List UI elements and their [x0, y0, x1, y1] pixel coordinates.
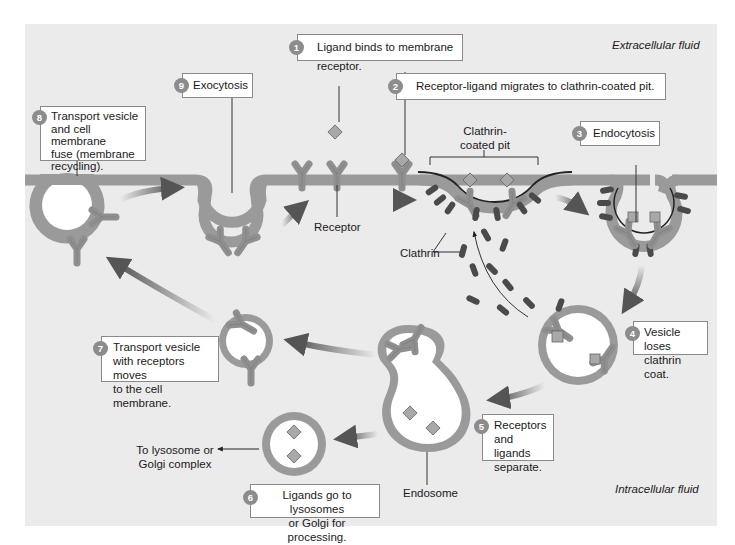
step-4-callout: Vesicle loses clathrin coat. [633, 321, 708, 355]
clathrin-pit-label: Clathrin- coated pit [460, 124, 510, 152]
extracellular-fluid-label: Extracellular fluid [612, 38, 700, 52]
step-6-line-2: or Golgi for processing. [261, 516, 373, 544]
step-4-line-2: clathrin coat. [644, 353, 701, 381]
step-5-line-3: separate. [494, 460, 547, 474]
step-5-line-2: and ligands [494, 432, 547, 460]
step-8-line-1: Transport vesicle [51, 110, 139, 123]
step-5-badge: 5 [474, 419, 489, 434]
step-8-line-4: recycling). [51, 160, 139, 173]
receptor-label: Receptor [314, 220, 361, 234]
ligand-vesicle [218, 412, 326, 476]
intracellular-fluid-label: Intracellular fluid [615, 482, 699, 496]
step-8-line-2: and cell membrane [51, 123, 139, 148]
step-7-line-3: to the cell membrane. [113, 382, 212, 410]
endosome-label: Endosome [403, 486, 458, 500]
step-2-text: Receptor-ligand migrates to clathrin-coa… [416, 80, 654, 92]
endosome [378, 324, 471, 485]
step-6-line-1: Ligands go to lysosomes [261, 488, 373, 516]
step-7-line-2: with receptors moves [113, 354, 212, 382]
step-8-callout: Transport vesicle and cell membrane fuse… [40, 106, 146, 161]
endocytosis-vesicle [597, 180, 692, 257]
step-9-text: Exocytosis [193, 79, 248, 91]
lysosome-golgi-label: To lysosome or Golgi complex [135, 443, 215, 471]
step-7-line-1: Transport vesicle [113, 340, 212, 354]
step-3-text: Endocytosis [593, 127, 655, 139]
step-4-line-1: Vesicle loses [644, 325, 701, 353]
step-9-badge: 9 [174, 78, 189, 93]
clathrin-coated-pit [418, 150, 572, 221]
step-5-line-1: Receptors [494, 418, 547, 432]
step-3-callout: Endocytosis [580, 121, 660, 146]
transport-vesicle [219, 313, 273, 383]
fusing-vesicle [35, 173, 116, 263]
lysosome-label-line-1: To lysosome or [135, 443, 215, 457]
clathrin-label: Clathrin [400, 246, 440, 260]
clathrin-pit-label-line-1: Clathrin- [460, 124, 510, 138]
step-6-badge: 6 [243, 490, 258, 505]
step-7-badge: 7 [93, 341, 108, 356]
step-5-callout: Receptors and ligands separate. [482, 414, 554, 461]
clathrin-pit-label-line-2: coated pit [460, 138, 510, 152]
uncoated-vesicle [538, 297, 618, 385]
step-1-badge: 1 [289, 40, 304, 55]
step-3-badge: 3 [572, 126, 587, 141]
step-6-callout: Ligands go to lysosomes or Golgi for pro… [250, 484, 380, 518]
step-8-line-3: fuse (membrane [51, 148, 139, 161]
free-clathrin [458, 227, 536, 317]
step-9-callout: Exocytosis [182, 73, 253, 98]
step-8-badge: 8 [32, 110, 47, 125]
lysosome-label-line-2: Golgi complex [135, 457, 215, 471]
step-2-badge: 2 [388, 79, 403, 94]
step-4-badge: 4 [625, 326, 640, 341]
step-2-callout: Receptor-ligand migrates to clathrin-coa… [396, 73, 666, 100]
step-1-callout: Ligand binds to membrane receptor. [297, 34, 463, 61]
step-7-callout: Transport vesicle with receptors moves t… [101, 336, 219, 382]
